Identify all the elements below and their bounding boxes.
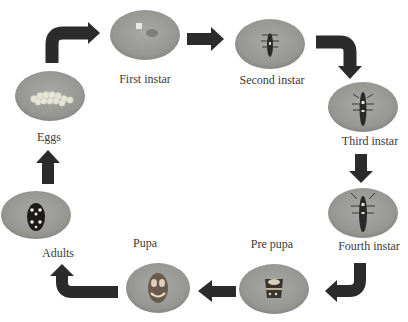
stage-label-second-instar: Second instar bbox=[240, 73, 305, 87]
stage-eggs-image bbox=[15, 71, 85, 121]
arrow-pupa-to-adults bbox=[50, 264, 118, 292]
arrow-second-to-third-instar bbox=[316, 42, 362, 79]
stage-pupa-image bbox=[126, 263, 190, 313]
arrow-first-to-second-instar bbox=[187, 27, 224, 51]
arrow-third-to-fourth-instar bbox=[349, 154, 373, 183]
stage-label-eggs: Eggs bbox=[37, 130, 61, 144]
pupa-icon bbox=[148, 273, 168, 303]
stage-label-first-instar: First instar bbox=[119, 72, 171, 86]
stage-label-fourth-instar: Fourth instar bbox=[338, 239, 400, 253]
arrow-pre-pupa-to-pupa bbox=[198, 280, 236, 302]
stage-third-instar-image bbox=[328, 82, 398, 132]
stage-fourth-instar-image bbox=[328, 188, 398, 238]
stage-label-pupa: Pupa bbox=[133, 236, 157, 250]
stage-second-instar-image bbox=[235, 19, 305, 69]
stage-adults-image bbox=[1, 191, 71, 239]
stage-pre-pupa-image bbox=[239, 264, 309, 314]
life-cycle-diagram bbox=[0, 0, 408, 322]
pre-pupa-icon bbox=[265, 279, 283, 298]
stage-first-instar-image bbox=[110, 10, 180, 60]
stage-label-adults: Adults bbox=[42, 246, 74, 260]
arrow-eggs-to-first-instar bbox=[52, 22, 100, 63]
stage-label-pre-pupa: Pre pupa bbox=[251, 237, 293, 251]
ladybird-beetle-icon bbox=[27, 203, 45, 231]
arrow-fourth-instar-to-pre-pupa bbox=[325, 263, 360, 302]
stage-label-third-instar: Third instar bbox=[342, 134, 398, 148]
arrow-adults-to-eggs bbox=[36, 150, 60, 184]
